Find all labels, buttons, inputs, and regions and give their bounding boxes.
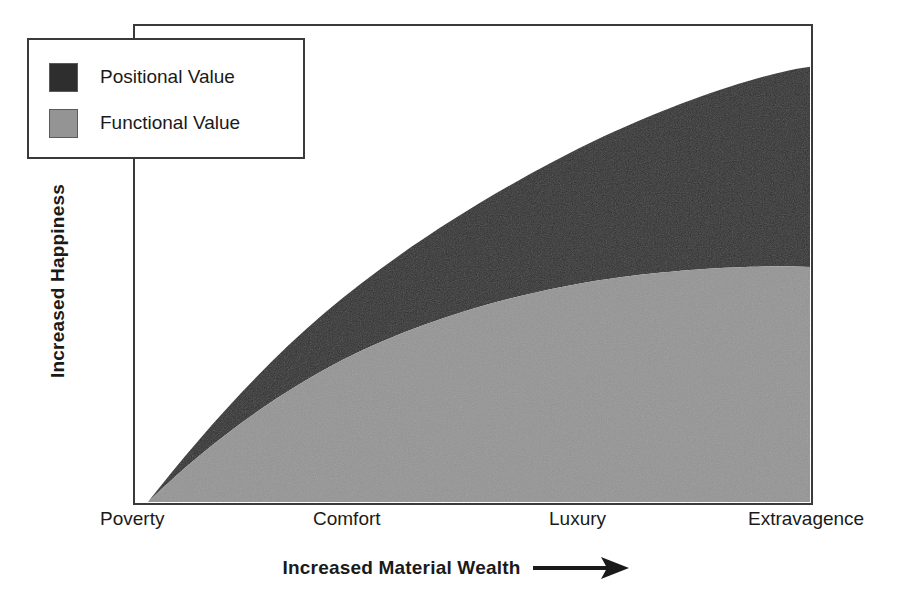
legend-item-functional-value: Functional Value bbox=[49, 100, 303, 146]
legend-swatch-functional-value bbox=[49, 109, 78, 138]
x-tick-label-comfort: Comfort bbox=[313, 508, 381, 530]
arrow-right-icon bbox=[533, 556, 629, 580]
x-axis-tick-labels: Poverty Comfort Luxury Extravagence bbox=[0, 508, 911, 538]
legend-item-positional-value: Positional Value bbox=[49, 54, 303, 100]
x-tick-label-extravagence: Extravagence bbox=[748, 508, 864, 530]
x-tick-label-luxury: Luxury bbox=[549, 508, 606, 530]
chart-figure: Increased Happiness bbox=[0, 0, 911, 608]
legend-label-functional-value: Functional Value bbox=[100, 112, 240, 134]
legend-label-positional-value: Positional Value bbox=[100, 66, 235, 88]
x-axis-group: Increased Material Wealth bbox=[0, 548, 911, 588]
legend-swatch-positional-value bbox=[49, 63, 78, 92]
x-tick-label-poverty: Poverty bbox=[100, 508, 164, 530]
chart-legend: Positional Value Functional Value bbox=[27, 38, 305, 159]
x-axis-title: Increased Material Wealth bbox=[282, 557, 520, 579]
